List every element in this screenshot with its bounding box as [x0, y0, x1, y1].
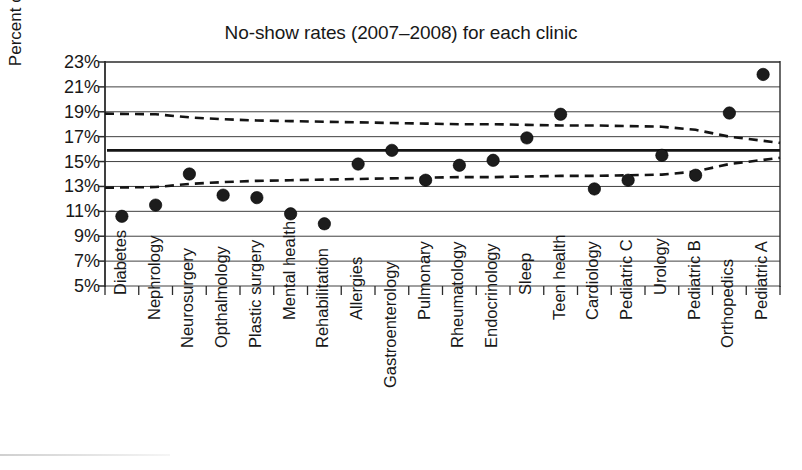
data-point [318, 218, 330, 230]
scan-artifact-line [0, 454, 170, 456]
data-point [453, 159, 465, 171]
data-point [183, 168, 195, 180]
data-point [723, 107, 735, 119]
data-point [251, 191, 263, 203]
plot-area [0, 0, 802, 470]
upper-control-limit-line [105, 114, 780, 143]
data-point [419, 174, 431, 186]
data-point [689, 169, 701, 181]
data-point [386, 144, 398, 156]
data-point [149, 199, 161, 211]
data-point [217, 189, 229, 201]
data-point [588, 183, 600, 195]
data-point [554, 108, 566, 120]
lower-control-limit-line [105, 158, 780, 188]
data-point [284, 208, 296, 220]
data-point [352, 158, 364, 170]
data-point [757, 68, 769, 80]
data-point [622, 174, 634, 186]
data-point [487, 154, 499, 166]
control-chart: No-show rates (2007–2008) for each clini… [0, 0, 802, 470]
data-point [521, 132, 533, 144]
data-point [656, 149, 668, 161]
data-point [116, 210, 128, 222]
